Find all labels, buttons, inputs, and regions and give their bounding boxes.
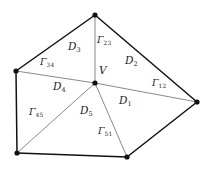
label-gamma-34: Γ34 [40, 57, 54, 69]
label-gamma-51-base: Γ [98, 125, 105, 136]
label-gamma-45-base: Γ [29, 106, 36, 117]
boundary-edge-gamma-45 [16, 71, 17, 153]
label-gamma-45-subscript: 45 [36, 112, 44, 118]
label-subdomain-d4-subscript: 4 [61, 86, 65, 94]
label-gamma-12-subscript: 12 [159, 83, 167, 89]
label-subdomain-d3: D3 [68, 41, 81, 53]
label-subdomain-d2-subscript: 2 [133, 60, 137, 68]
boundary-edge-gamma-12 [127, 102, 197, 157]
label-gamma-34-subscript: 34 [47, 62, 55, 68]
label-gamma-34-base: Γ [40, 56, 47, 67]
label-subdomain-d1: D1 [119, 95, 132, 107]
label-subdomain-d2: D2 [125, 55, 138, 67]
vertex-dot-center-v [92, 80, 97, 85]
label-subdomain-d4: D4 [53, 81, 66, 93]
interior-edge-v-to-right [95, 83, 197, 102]
label-subdomain-d5: D5 [80, 105, 93, 117]
vertex-dot-right [194, 99, 199, 104]
label-gamma-12: Γ12 [152, 78, 166, 90]
label-gamma-12-base: Γ [152, 77, 159, 88]
geometry-diagram-figure: Γ12 Γ23 Γ34 Γ45 Γ51 D1 D2 D3 D4 D5 V [0, 0, 210, 175]
label-gamma-51-subscript: 51 [105, 131, 113, 137]
label-gamma-23-subscript: 23 [104, 40, 112, 46]
vertex-dot-top [92, 12, 97, 17]
label-gamma-23-base: Γ [97, 34, 104, 45]
diagram-canvas [0, 0, 210, 175]
label-gamma-23: Γ23 [97, 35, 111, 47]
boundary-edge-gamma-23 [95, 15, 197, 102]
label-subdomain-d1-subscript: 1 [127, 100, 131, 108]
label-subdomain-d5-subscript: 5 [88, 110, 92, 118]
label-subdomain-d3-subscript: 3 [76, 46, 80, 54]
label-gamma-45: Γ45 [29, 107, 43, 119]
boundary-edge-gamma-51 [17, 153, 127, 157]
vertex-dot-bottom-left [14, 150, 19, 155]
label-center-vertex: V [99, 65, 107, 76]
boundary-edge-gamma-34 [16, 15, 95, 71]
vertex-dot-left [13, 68, 18, 73]
label-gamma-51: Γ51 [98, 126, 112, 138]
vertex-dot-bottom-right [124, 154, 129, 159]
